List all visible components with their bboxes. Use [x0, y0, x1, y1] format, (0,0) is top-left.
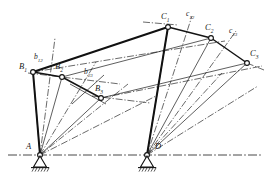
link-A-B1 — [33, 72, 40, 155]
label-C1: C1 — [161, 12, 169, 23]
mechanism-medium-links — [33, 27, 247, 98]
label-c12: c12 — [186, 10, 194, 20]
diagram-canvas — [0, 0, 266, 179]
line-A-B2 — [40, 77, 62, 155]
label-B3: B3 — [95, 84, 103, 95]
label-D: D — [155, 142, 161, 151]
label-b23: b23 — [84, 68, 93, 78]
link-B1-C1 — [33, 27, 168, 72]
line-A-B3 — [40, 98, 101, 155]
construction-ray-a2 — [40, 96, 156, 155]
kinematic-diagram: B1 B2 B3 C1 C2 C3 b12 b23 c12 c23 A D — [0, 0, 266, 179]
bisector-c23 — [147, 31, 236, 155]
pin-B1 — [31, 70, 36, 75]
axis-through-b1-b2 — [28, 73, 120, 84]
pose-construction-lines — [33, 27, 247, 155]
pin-C3 — [245, 61, 250, 66]
axis-b3-c3 — [101, 66, 262, 98]
construction-ray-d2 — [147, 86, 258, 155]
pin-B2 — [60, 75, 65, 80]
pin-C2 — [209, 36, 214, 41]
ground-pivot-A — [31, 153, 49, 172]
label-B1: B1 — [19, 62, 27, 73]
coupler-pose-3 — [101, 63, 247, 98]
pin-C1 — [166, 25, 171, 30]
label-B2: B2 — [55, 62, 63, 73]
label-c23: c23 — [229, 27, 237, 37]
label-C2: C2 — [205, 23, 213, 34]
label-C3: C3 — [250, 49, 258, 60]
ground-pivot-D — [138, 153, 156, 172]
pin-B3 — [99, 96, 104, 101]
label-A: A — [26, 142, 31, 151]
bisector-lines — [28, 16, 264, 155]
label-b12: b12 — [34, 53, 43, 63]
